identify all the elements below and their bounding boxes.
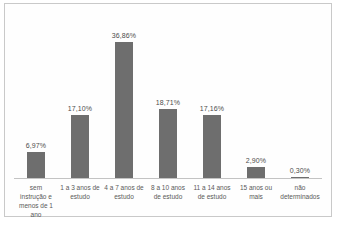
bar-value-label: 2,90% (246, 157, 266, 164)
bar-column: 18,71% (146, 99, 190, 178)
bar-column: 6,97% (14, 142, 58, 178)
bar (203, 115, 221, 178)
bar (247, 167, 265, 178)
bar-column: 17,16% (190, 105, 234, 178)
category-label: 15 anos ou mais (234, 183, 278, 219)
bar-column: 17,10% (58, 105, 102, 178)
bar-value-label: 6,97% (26, 142, 46, 149)
bar (115, 42, 133, 178)
bar-column: 36,86% (102, 32, 146, 178)
bar (71, 115, 89, 178)
category-axis: sem instrução e menos de 1 ano1 a 3 anos… (14, 183, 322, 219)
bar-value-label: 18,71% (156, 99, 180, 106)
category-label: sem instrução e menos de 1 ano (14, 183, 58, 219)
bar (27, 152, 45, 178)
bar-column: 0,30% (278, 167, 322, 178)
bar-value-label: 0,30% (290, 167, 310, 174)
bar-value-label: 36,86% (112, 32, 136, 39)
chart-frame: 6,97%17,10%36,86%18,71%17,16%2,90%0,30% … (4, 3, 332, 217)
bar (159, 109, 177, 178)
plot-area: 6,97%17,10%36,86%18,71%17,16%2,90%0,30% (14, 10, 322, 178)
bar-value-label: 17,16% (200, 105, 224, 112)
category-label: não determinados (278, 183, 322, 219)
category-label: 1 a 3 anos de estudo (58, 183, 102, 219)
category-label: 8 a 10 anos de estudo (146, 183, 190, 219)
category-label: 4 a 7 anos de estudo (102, 183, 146, 219)
x-axis-line (14, 178, 322, 179)
bar-column: 2,90% (234, 157, 278, 178)
category-label: 11 a 14 anos de estudo (190, 183, 234, 219)
bar-value-label: 17,10% (68, 105, 92, 112)
